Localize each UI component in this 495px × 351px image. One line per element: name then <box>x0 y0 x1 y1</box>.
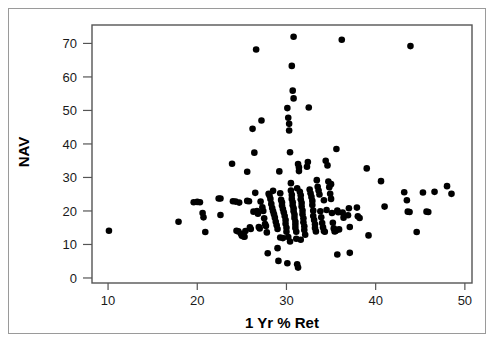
data-point <box>287 149 294 156</box>
data-point <box>290 95 297 102</box>
data-point <box>289 87 296 94</box>
data-point <box>346 250 353 257</box>
data-point <box>264 229 271 236</box>
data-point <box>378 178 385 185</box>
data-point <box>276 168 283 175</box>
y-tick-label: 30 <box>63 170 77 185</box>
data-point <box>260 208 267 215</box>
data-point <box>425 209 432 216</box>
data-point <box>242 228 249 235</box>
data-point <box>236 199 243 206</box>
data-point <box>323 207 330 214</box>
data-point <box>420 189 427 196</box>
data-point <box>296 168 303 175</box>
data-point <box>334 251 341 258</box>
y-tick-label: 10 <box>63 237 77 252</box>
data-point <box>217 195 224 202</box>
data-point <box>246 198 253 205</box>
data-point <box>401 189 408 196</box>
data-point <box>322 228 329 235</box>
data-point <box>413 229 420 236</box>
data-point <box>294 185 301 192</box>
y-tick-label: 40 <box>63 137 77 152</box>
data-point <box>277 190 284 197</box>
data-point <box>345 212 352 219</box>
y-tick-label: 70 <box>63 36 77 51</box>
data-point <box>333 146 340 153</box>
data-point <box>316 191 323 198</box>
data-point <box>289 63 296 70</box>
data-point <box>250 208 257 215</box>
data-point <box>328 181 335 188</box>
x-tick-label: 10 <box>101 293 115 308</box>
data-point <box>365 232 372 239</box>
data-point <box>302 231 309 238</box>
data-point <box>263 223 270 230</box>
data-point <box>253 46 260 53</box>
data-point <box>252 190 259 197</box>
data-point <box>202 229 209 236</box>
y-tick-label: 50 <box>63 103 77 118</box>
y-tick-label: 60 <box>63 70 77 85</box>
data-point <box>338 36 345 43</box>
data-point <box>106 227 113 234</box>
data-point <box>270 188 277 195</box>
data-point <box>251 149 258 156</box>
data-point <box>175 218 182 225</box>
chart-canvas: 1020304050010203040506070 1 Yr % Ret NAV <box>0 0 495 351</box>
data-point <box>407 43 414 50</box>
data-point <box>217 212 224 219</box>
data-point <box>229 160 236 167</box>
x-tick-label: 30 <box>279 293 293 308</box>
data-point <box>241 233 248 240</box>
data-point <box>330 219 337 226</box>
data-point <box>354 204 361 211</box>
data-point <box>431 189 438 196</box>
data-point <box>257 198 264 205</box>
data-point <box>287 238 294 245</box>
data-point <box>261 215 268 222</box>
x-tick-label: 40 <box>368 293 382 308</box>
data-point <box>285 115 292 122</box>
data-point <box>297 236 304 243</box>
x-tick-label: 50 <box>458 293 472 308</box>
plot-frame <box>92 25 472 283</box>
data-point <box>321 197 328 204</box>
data-point <box>249 126 256 133</box>
data-point <box>356 215 363 222</box>
data-point <box>444 183 451 190</box>
data-point <box>346 224 353 231</box>
data-point <box>381 203 388 210</box>
data-point <box>200 214 207 221</box>
data-point <box>363 165 370 172</box>
data-point <box>286 127 293 134</box>
data-point <box>284 105 291 112</box>
data-point <box>404 197 411 204</box>
scatter-plot-figure: 1020304050010203040506070 1 Yr % Ret NAV <box>0 0 495 351</box>
data-point <box>256 225 263 232</box>
data-point <box>288 180 295 187</box>
data-point <box>309 202 316 209</box>
data-point <box>305 159 312 166</box>
data-point <box>275 258 282 265</box>
data-points <box>106 33 455 270</box>
x-tick-label: 20 <box>190 293 204 308</box>
data-point <box>286 121 293 128</box>
y-axis-title: NAV <box>15 137 32 168</box>
plot-area <box>92 25 472 283</box>
data-point <box>274 245 281 252</box>
data-point <box>313 177 320 184</box>
data-point <box>336 226 343 233</box>
data-point <box>290 33 297 40</box>
data-point <box>346 205 353 212</box>
data-point <box>324 162 331 169</box>
data-point <box>318 214 325 221</box>
data-point <box>313 228 320 235</box>
data-point <box>448 191 455 198</box>
data-point <box>197 199 204 206</box>
data-point <box>295 264 302 271</box>
y-tick-label: 20 <box>63 204 77 219</box>
data-point <box>317 208 324 215</box>
x-axis-title: 1 Yr % Ret <box>245 314 319 331</box>
data-point <box>244 168 251 175</box>
